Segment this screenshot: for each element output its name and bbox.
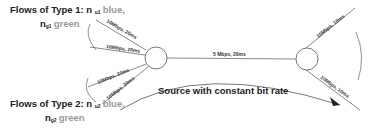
- flows-type2-label-line2: ng2green: [45, 112, 85, 123]
- link-right-bottom-label: 10Mbps, 10ms: [319, 74, 350, 99]
- flows-type1-label-line2: ng1green: [40, 18, 80, 29]
- left-router-node: [145, 47, 167, 69]
- flows-type1-label: Flows of Type 1: n u1blue,: [10, 4, 125, 15]
- flows-type2-label: Flows of Type 2: n u2blue,: [10, 98, 125, 109]
- bottleneck-link: [167, 58, 296, 59]
- source-label: Source with constant bit rate: [158, 85, 288, 96]
- link-right-top-label: 10Mbps, 10ms: [315, 13, 346, 39]
- arrow-head-icon: [330, 97, 340, 106]
- right-router-node: [296, 48, 318, 70]
- right-bracket: [356, 32, 362, 80]
- type1-bracket: [88, 24, 96, 50]
- bottleneck-label: 5 Mbps, 20ms: [213, 51, 246, 57]
